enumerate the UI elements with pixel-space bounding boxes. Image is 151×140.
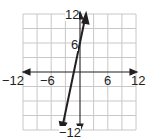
x-tick-label-12: 12 bbox=[131, 74, 145, 87]
y-tick-label-neg12: −12 bbox=[59, 126, 81, 139]
line-arrow-top-icon bbox=[83, 14, 89, 24]
y-tick-label-6: 6 bbox=[71, 38, 78, 51]
x-tick-label-neg12: −12 bbox=[2, 74, 24, 87]
x-tick-label-6: 6 bbox=[104, 74, 111, 87]
y-tick-label-12: 12 bbox=[65, 8, 79, 21]
axes bbox=[23, 12, 137, 131]
x-tick-label-neg6: −6 bbox=[40, 74, 55, 87]
